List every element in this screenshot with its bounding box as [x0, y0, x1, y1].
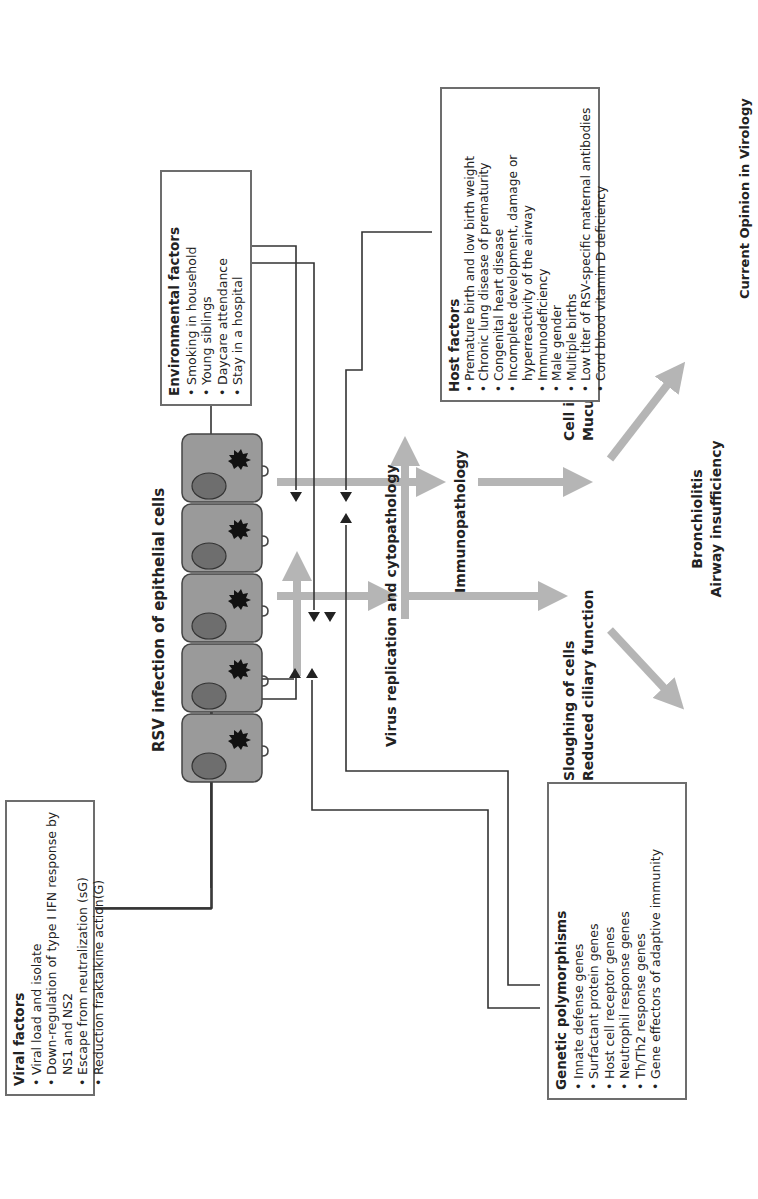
label-bronchiolitis: Bronchiolitis Airway insufficiency: [688, 439, 726, 599]
connector-host-2: [400, 139, 432, 212]
genetic-polymorphisms-box: Genetic polymorphisms Innate defense gen…: [547, 782, 687, 1100]
host-factors-box: Host factors Premature birth and low bir…: [440, 87, 600, 402]
epithelial-cell: [182, 504, 268, 572]
label-sloughing-line2: Reduced ciliary function: [579, 590, 598, 781]
viral-factor-item: Down-regulation of type I IFN response b…: [44, 810, 75, 1086]
host-item: Immunodeficiency: [536, 97, 551, 392]
environmental-item: Stay in a hospital: [230, 180, 246, 396]
label-sloughing-line1: Sloughing of cells: [560, 590, 579, 781]
host-item: Premature birth and low birth weight: [463, 97, 478, 392]
genetic-item: Host cell receptor genes: [602, 792, 618, 1090]
arrowhead-env-top: [290, 492, 302, 502]
viral-factor-item: Reduction fraktalkine action(G): [91, 810, 107, 1086]
label-bronchiolitis-line2: Airway insufficiency: [707, 439, 726, 599]
viral-factors-title: Viral factors: [12, 810, 28, 1086]
journal-source: Current Opinion in Virology: [737, 98, 752, 299]
label-virus-replication: Virus replication and cytopathology: [383, 464, 399, 747]
label-sloughing: Sloughing of cells Reduced ciliary funct…: [560, 590, 598, 781]
environmental-item: Daycare attendance: [215, 180, 231, 396]
viral-factor-item: Viral load and isolate: [29, 810, 45, 1086]
label-immunopathology: Immunopathology: [452, 450, 468, 593]
genetic-polymorphisms-list: Innate defense genes Surfactant protein …: [571, 792, 664, 1090]
diagram-canvas: RSV infection of epithelial cells Virus …: [0, 0, 758, 1199]
host-item: Incomplete development, damage or hyperr…: [506, 97, 535, 392]
environmental-factors-title: Environmental factors: [167, 180, 183, 396]
epithelial-cell: [182, 574, 268, 642]
epithelial-cells: [178, 424, 270, 784]
viral-factors-list: Viral load and isolate Down-regulation o…: [29, 810, 107, 1086]
diagram-title: RSV infection of epithelial cells: [150, 488, 168, 752]
arrowhead-genetic-2: [340, 513, 352, 523]
connector-genetic-2: [346, 525, 540, 985]
environmental-factors-box: Environmental factors Smoking in househo…: [160, 170, 252, 406]
arrowhead-genetic: [306, 668, 318, 678]
genetic-item: Gene effectors of adaptive immunity: [648, 792, 664, 1090]
environmental-item: Smoking in household: [184, 180, 200, 396]
environmental-item: Young siblings: [199, 180, 215, 396]
viral-factors-box: Viral factors Viral load and isolate Dow…: [5, 800, 95, 1096]
viral-factor-item: Escape from neutralization (sG): [75, 810, 91, 1086]
epithelial-cell: [182, 714, 268, 782]
host-factors-list: Premature birth and low birth weight Chr…: [463, 97, 609, 392]
host-item: Chronic lung disease of prematurity: [477, 97, 492, 392]
host-item: Multiple births: [565, 97, 580, 392]
host-item: Cord blood vitamin D deficiency: [594, 97, 609, 392]
genetic-item: Surfactant protein genes: [586, 792, 602, 1090]
genetic-polymorphisms-title: Genetic polymorphisms: [554, 792, 570, 1090]
label-bronchiolitis-line1: Bronchiolitis: [688, 439, 707, 599]
epithelial-cell: [182, 644, 268, 712]
epithelial-cell: [182, 434, 268, 502]
arrowhead-env-lower: [308, 612, 320, 622]
arrowhead-extra-lower: [324, 612, 336, 622]
host-factors-title: Host factors: [447, 97, 462, 392]
arrowheads: [289, 492, 352, 678]
environmental-factors-list: Smoking in household Young siblings Dayc…: [184, 180, 246, 396]
host-item: Male gender: [550, 97, 565, 392]
host-item: Congenital heart disease: [492, 97, 507, 392]
genetic-item: Th/Th2 response genes: [633, 792, 649, 1090]
genetic-item: Neutrophil response genes: [617, 792, 633, 1090]
arrowhead-viral: [289, 668, 301, 678]
host-item: Low titer of RSV-specific maternal antib…: [579, 97, 594, 392]
arrowhead-host-top: [340, 492, 352, 502]
genetic-item: Innate defense genes: [571, 792, 587, 1090]
connector-host-1: [346, 232, 432, 490]
